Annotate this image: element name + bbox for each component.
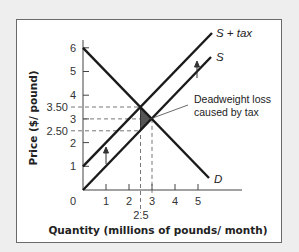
x-tick-5: 5 [195,195,201,207]
supply-curve [83,57,211,190]
y-axis-title: Price ($/ pound) [27,70,39,165]
y-tick-6: 6 [70,42,76,54]
y-tick-4: 4 [70,89,76,101]
y-tick-3: 3 [70,113,76,125]
x-axis-title: Quantity (millions of pounds/ month) [48,224,267,236]
supply-plus-tax-curve [83,33,212,166]
annotation-line-2: caused by tax [194,106,260,118]
curve-label-s: S [216,51,224,63]
x-tick-1: 1 [103,195,109,207]
demand-curve [83,48,209,178]
x-tick-3: 3 [149,195,155,207]
x-tick-0: 0 [70,195,76,207]
y-tick-2-50: 2.50 [47,125,68,137]
y-tick-2: 2 [70,137,76,149]
shift-arrows [104,61,200,164]
annotation-line-1: Deadweight loss [194,93,271,105]
annotation-leader-line [150,105,188,119]
x-tick-2: 2 [126,195,132,207]
x-tick-2-5: 2.5 [133,209,148,221]
y-tick-1: 1 [70,160,76,172]
curve-label-d: D [214,173,222,185]
x-tick-4: 4 [172,195,178,207]
y-tick-3-50: 3.50 [47,101,68,113]
curve-label-s-tax: S + tax [216,27,253,39]
supply-demand-chart: 1 2 3 4 5 6 3.50 2.50 0 1 2 3 4 5 2.5 De… [0,0,299,252]
y-tick-5: 5 [70,65,76,77]
